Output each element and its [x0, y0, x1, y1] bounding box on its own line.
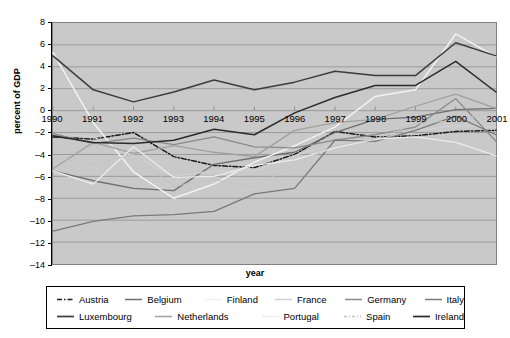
- y-tick-mark: [48, 265, 52, 266]
- legend-item-france[interactable]: France: [275, 294, 345, 305]
- series-line-luxembourg: [53, 43, 496, 102]
- legend-item-germany[interactable]: Germany: [345, 294, 424, 305]
- legend-swatch-ireland: [413, 312, 430, 321]
- y-tick-label: 6: [40, 39, 45, 49]
- legend-label: Germany: [367, 294, 406, 305]
- series-lines: [53, 23, 496, 264]
- x-tick-label: 1999: [406, 113, 427, 124]
- legend-label: Luxembourg: [79, 311, 132, 322]
- legend-item-luxembourg[interactable]: Luxembourg: [57, 311, 155, 322]
- legend-row: LuxembourgNetherlandsPortugalSpainIrelan…: [47, 308, 464, 325]
- legend-swatch-netherlands: [155, 312, 172, 321]
- y-axis: 86420–2–4–6–8–10–12–14: [0, 0, 52, 265]
- legend-item-portugal[interactable]: Portugal: [262, 311, 345, 322]
- y-tick-label: –8: [35, 194, 45, 204]
- legend-label: Austria: [79, 294, 109, 305]
- legend-swatch-portugal: [262, 312, 279, 321]
- y-tick-label: 4: [40, 61, 45, 71]
- x-tick-label: 1997: [325, 113, 346, 124]
- legend-label: Spain: [366, 311, 390, 322]
- x-tick-label: 1993: [163, 113, 184, 124]
- y-tick-label: –10: [30, 216, 45, 226]
- x-tick-label: 1996: [284, 113, 305, 124]
- chart-figure: percent of GDP 86420–2–4–6–8–10–12–14 19…: [0, 0, 510, 338]
- x-tick-label: 1990: [41, 113, 62, 124]
- legend-swatch-italy: [425, 295, 442, 304]
- legend-label: Ireland: [435, 311, 464, 322]
- legend-label: Netherlands: [177, 311, 228, 322]
- legend-row: AustriaBelgiumFinlandFranceGermanyItaly: [47, 291, 464, 308]
- y-tick-label: –12: [30, 238, 45, 248]
- x-tick-label: 1992: [122, 113, 143, 124]
- legend-label: Finland: [227, 294, 258, 305]
- legend-swatch-luxembourg: [57, 312, 74, 321]
- y-tick-label: 2: [40, 83, 45, 93]
- x-tick-label: 1991: [82, 113, 103, 124]
- x-tick-label: 1995: [244, 113, 265, 124]
- legend-label: Portugal: [284, 311, 319, 322]
- y-tick-label: –6: [35, 172, 45, 182]
- legend-swatch-spain: [344, 312, 361, 321]
- legend-swatch-austria: [57, 295, 74, 304]
- legend-item-italy[interactable]: Italy: [425, 294, 464, 305]
- legend-item-belgium[interactable]: Belgium: [125, 294, 204, 305]
- series-line-italy: [53, 116, 496, 231]
- x-tick-label: 1998: [365, 113, 386, 124]
- x-axis-title: year: [0, 268, 510, 278]
- legend-label: Italy: [447, 294, 464, 305]
- legend-item-spain[interactable]: Spain: [344, 311, 413, 322]
- x-tick-label: 2001: [486, 113, 507, 124]
- chart-legend: AustriaBelgiumFinlandFranceGermanyItalyL…: [46, 286, 465, 329]
- legend-label: Belgium: [147, 294, 181, 305]
- legend-item-finland[interactable]: Finland: [205, 294, 275, 305]
- series-line-france: [53, 126, 496, 176]
- x-tick-label: 2000: [446, 113, 467, 124]
- legend-item-austria[interactable]: Austria: [57, 294, 125, 305]
- y-tick-label: –4: [35, 150, 45, 160]
- legend-item-ireland[interactable]: Ireland: [413, 311, 464, 322]
- y-tick-label: –2: [35, 127, 45, 137]
- legend-label: France: [297, 294, 327, 305]
- legend-swatch-france: [275, 295, 292, 304]
- legend-item-netherlands[interactable]: Netherlands: [155, 311, 261, 322]
- legend-swatch-belgium: [125, 295, 142, 304]
- plot-area: [52, 22, 497, 265]
- y-tick-label: 8: [40, 17, 45, 27]
- legend-swatch-finland: [205, 295, 222, 304]
- legend-swatch-germany: [345, 295, 362, 304]
- series-line-finland: [53, 34, 496, 198]
- x-tick-label: 1994: [203, 113, 224, 124]
- series-line-netherlands: [53, 94, 496, 168]
